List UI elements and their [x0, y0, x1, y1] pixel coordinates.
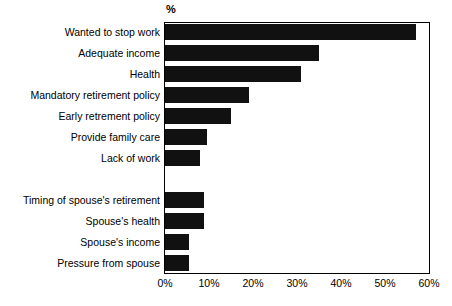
bar [165, 66, 301, 82]
bar-row: Health [0, 64, 452, 85]
bar-row-label: Health [0, 67, 160, 81]
bar-row-label: Provide family care [0, 130, 160, 144]
bar [165, 129, 207, 145]
bar-row: Lack of work [0, 148, 452, 169]
bar-row-label: Early retrement policy [0, 109, 160, 123]
bar-row: Pressure from spouse [0, 253, 452, 274]
bar [165, 192, 204, 208]
x-axis: 0%10%20%30%40%50%60% [0, 276, 452, 296]
bar [165, 150, 200, 166]
bar [165, 87, 249, 103]
bar-row-label: Pressure from spouse [0, 256, 160, 270]
x-axis-tick-label: 20% [242, 276, 263, 290]
bar [165, 234, 189, 250]
bar-row: Wanted to stop work [0, 22, 452, 43]
bar-row-label: Wanted to stop work [0, 25, 160, 39]
bar-rows: Wanted to stop workAdequate incomeHealth… [0, 22, 452, 274]
bar-row-label: Lack of work [0, 151, 160, 165]
bar-row-label: Adequate income [0, 46, 160, 60]
bar-row-spacer [0, 169, 452, 190]
bar-chart: % Wanted to stop workAdequate incomeHeal… [0, 0, 452, 306]
axis-unit-label: % [166, 3, 176, 15]
bar [165, 255, 189, 271]
bar-row: Mandatory retirement policy [0, 85, 452, 106]
bar-row-label: Spouse's health [0, 214, 160, 228]
bar [165, 45, 319, 61]
bar-row-label: Spouse's income [0, 235, 160, 249]
x-axis-tick-label: 0% [157, 276, 172, 290]
bar-row: Spouse's health [0, 211, 452, 232]
x-axis-tick-label: 10% [198, 276, 219, 290]
bar-row: Early retrement policy [0, 106, 452, 127]
bar-row: Spouse's income [0, 232, 452, 253]
x-axis-tick-label: 40% [330, 276, 351, 290]
x-axis-tick-label: 50% [374, 276, 395, 290]
bar-row: Timing of spouse's retirement [0, 190, 452, 211]
bar-row: Adequate income [0, 43, 452, 64]
bar [165, 213, 204, 229]
bar-row: Provide family care [0, 127, 452, 148]
bar [165, 108, 231, 124]
bar-row-label: Timing of spouse's retirement [0, 193, 160, 207]
x-axis-tick-label: 60% [418, 276, 439, 290]
bar [165, 24, 416, 40]
bar-row-label: Mandatory retirement policy [0, 88, 160, 102]
x-axis-tick-label: 30% [286, 276, 307, 290]
